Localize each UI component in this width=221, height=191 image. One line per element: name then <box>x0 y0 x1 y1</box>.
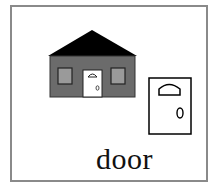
door-icon <box>149 78 191 134</box>
word-label: door <box>96 142 153 176</box>
house-icon <box>48 30 137 97</box>
